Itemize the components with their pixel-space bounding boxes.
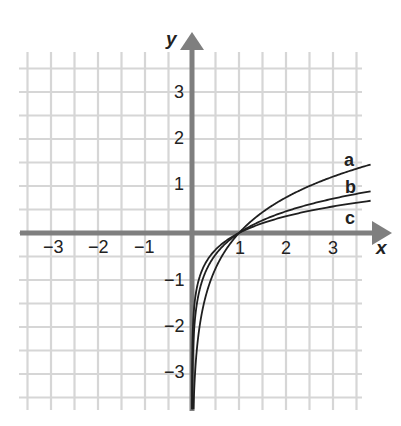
curve-label-b: b — [345, 177, 356, 197]
y-tick-label: 3 — [174, 82, 184, 102]
x-tick-label: 2 — [281, 238, 291, 258]
curve-label-a: a — [344, 150, 355, 170]
y-tick-label: 1 — [174, 174, 184, 194]
curve-a — [194, 165, 371, 410]
x-tick-label: 1 — [235, 238, 245, 258]
x-tick-label: −1 — [134, 237, 155, 257]
x-axis-label: x — [375, 237, 388, 258]
x-tick-label: −2 — [88, 237, 109, 257]
y-tick-label: −3 — [164, 362, 185, 382]
y-tick-label: 2 — [174, 128, 184, 148]
x-tick-label: 3 — [328, 238, 338, 258]
x-tick-label: −3 — [43, 237, 64, 257]
log-graph: x y −3 −2 −1 1 2 3 3 2 1 −1 −2 −3 a b c — [0, 0, 401, 426]
y-tick-label: −2 — [164, 316, 185, 336]
y-tick-label: −1 — [164, 270, 185, 290]
y-axis-label: y — [165, 28, 178, 49]
curve-label-c: c — [345, 208, 355, 228]
curve-b — [192, 191, 370, 409]
y-axis-arrow-icon — [180, 32, 204, 50]
curves — [192, 165, 371, 410]
